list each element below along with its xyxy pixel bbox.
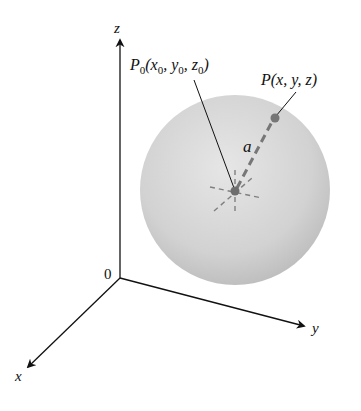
surface-point-label: P(x, y, z) — [260, 71, 317, 89]
surface-point — [271, 114, 280, 123]
center-point-label: P0(x0, y0, z0) — [129, 56, 209, 76]
radius-label: a — [243, 137, 252, 156]
origin-label: 0 — [104, 266, 112, 282]
sphere-diagram: z y x 0 a P0(x0, y0, z0) P(x, y, z) — [0, 0, 361, 411]
y-axis — [120, 278, 304, 326]
x-axis — [28, 278, 120, 367]
z-axis-label: z — [113, 20, 120, 36]
x-axis-label: x — [14, 368, 22, 384]
center-point — [231, 187, 240, 196]
y-axis-label: y — [310, 320, 319, 336]
